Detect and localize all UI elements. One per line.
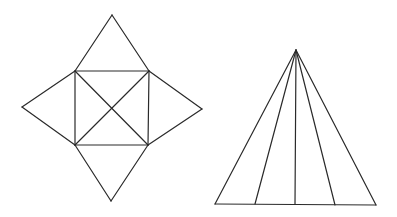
diagram-canvas — [0, 0, 397, 217]
triangle-inner-line — [296, 50, 335, 205]
triangle-side-edge — [215, 50, 296, 204]
bottom-triangle-edge — [75, 145, 111, 201]
diagram-svg — [0, 0, 397, 217]
left-triangle-edge — [22, 107, 75, 145]
triangle-fan-figure — [215, 50, 376, 205]
bottom-triangle-edge — [111, 145, 148, 201]
right-triangle-edge — [148, 109, 202, 145]
triangle-inner-line — [255, 50, 296, 204]
triangle-side-edge — [296, 50, 376, 205]
top-triangle-edge — [112, 15, 149, 71]
left-triangle-edge — [22, 71, 75, 107]
pyramid-net-figure — [22, 15, 202, 201]
triangle-inner-line — [295, 50, 296, 204]
right-triangle-edge — [149, 71, 202, 109]
top-triangle-edge — [75, 15, 112, 71]
square-right-edge — [148, 71, 149, 145]
